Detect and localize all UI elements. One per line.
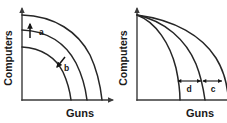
ppf-diagram: a b Computers Guns — [0, 0, 227, 123]
annotation-d-label: d — [186, 84, 191, 94]
right-outer-frontier — [137, 15, 227, 95]
left-panel-y-axis-label: Computers — [2, 30, 14, 86]
annotation-b-label: b — [64, 63, 69, 73]
annotation-c-label: c — [211, 84, 216, 94]
left-middle-frontier — [22, 30, 87, 100]
right-annotation-c: c — [203, 81, 222, 94]
right-panel: d c Computers Guns — [117, 9, 227, 119]
annotation-a-label: a — [39, 27, 44, 37]
right-middle-frontier — [137, 15, 205, 100]
left-annotation-b: b — [57, 57, 69, 73]
right-panel-y-axis-label: Computers — [117, 30, 129, 86]
right-panel-x-axis-label: Guns — [186, 107, 214, 119]
left-inner-frontier — [22, 47, 71, 100]
right-annotation-d: d — [178, 81, 201, 94]
left-panel-x-axis-label: Guns — [66, 107, 94, 119]
right-inner-frontier — [137, 15, 180, 100]
left-outer-frontier — [22, 15, 102, 100]
left-panel: a b Computers Guns — [2, 9, 112, 119]
